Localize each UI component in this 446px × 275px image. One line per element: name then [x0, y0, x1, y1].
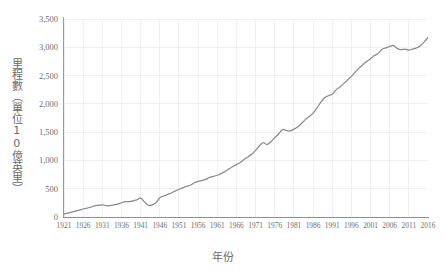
x-tick-label: 1926 [76, 221, 91, 230]
x-tick-label: 1921 [57, 221, 72, 230]
plot-area [64, 19, 428, 217]
x-tick-label: 2011 [402, 221, 417, 230]
x-tick-label: 1931 [95, 221, 110, 230]
x-tick-label: 2001 [363, 221, 378, 230]
y-tick-label: 2,000 [22, 99, 58, 109]
y-tick-label: 500 [22, 184, 58, 194]
x-tick-label: 2016 [421, 221, 436, 230]
y-tick-label: 3,000 [22, 42, 58, 52]
plot-svg [64, 19, 428, 217]
x-tick-label: 1956 [191, 221, 206, 230]
x-tick-label: 1961 [210, 221, 225, 230]
x-tick-label: 1936 [114, 221, 129, 230]
x-axis-title: 年份 [0, 248, 446, 264]
x-axis-line [63, 217, 429, 218]
y-tick-label: 3,500 [22, 14, 58, 24]
x-tick-label: 2006 [382, 221, 397, 230]
y-tick-label: 2,500 [22, 71, 58, 81]
y-tick-label: 1,500 [22, 127, 58, 137]
y-axis-line [63, 17, 64, 218]
x-tick-label: 1976 [267, 221, 282, 230]
x-tick-label: 1966 [229, 221, 244, 230]
x-tick-label: 1941 [133, 221, 148, 230]
vertical-gridlines [64, 19, 428, 217]
x-tick-label: 1951 [172, 221, 187, 230]
x-tick-label: 1946 [152, 221, 167, 230]
y-tick-label: 1,000 [22, 155, 58, 165]
x-axis-tick-labels: 1921192619311936194119461951195619611966… [0, 221, 446, 235]
x-tick-label: 1996 [344, 221, 359, 230]
mileage-line-chart: 里程數（單位10億英里） 05001,0001,5002,0002,5003,0… [0, 0, 446, 275]
x-tick-label: 1986 [306, 221, 321, 230]
x-tick-label: 1971 [248, 221, 263, 230]
x-tick-label: 1981 [287, 221, 302, 230]
series-line-mileage [64, 37, 428, 213]
horizontal-gridlines [64, 19, 428, 217]
x-tick-label: 1991 [325, 221, 340, 230]
